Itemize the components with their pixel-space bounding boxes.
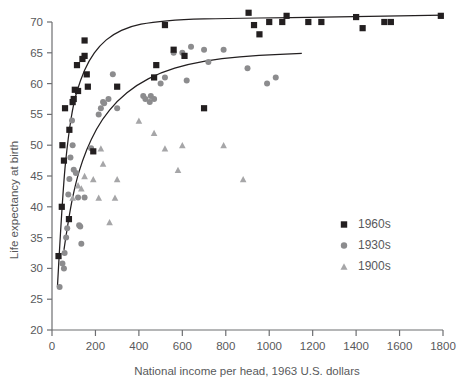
data-point-1930s	[101, 100, 107, 106]
data-point-1960s	[279, 19, 285, 25]
data-point-1930s	[158, 81, 164, 87]
data-point-1930s	[151, 96, 157, 102]
data-point-1960s	[59, 204, 65, 210]
data-point-1960s	[84, 71, 90, 77]
data-point-1960s	[114, 84, 120, 90]
data-point-1930s	[64, 225, 70, 231]
data-point-1930s	[98, 105, 104, 111]
data-point-1930s	[162, 74, 168, 80]
data-point-1900s	[175, 167, 182, 173]
data-point-1960s	[59, 142, 65, 148]
y-tick-label: 40	[30, 201, 43, 213]
data-point-1930s	[66, 176, 72, 182]
y-tick-label: 30	[30, 262, 43, 274]
series-points-1900s	[69, 117, 246, 225]
data-point-1900s	[151, 130, 158, 136]
y-tick-label: 55	[30, 108, 43, 120]
data-point-1930s	[70, 142, 76, 148]
data-point-1960s	[388, 19, 394, 25]
chart-legend: 1960s1930s1900s	[341, 217, 391, 273]
series-points-1930s	[57, 44, 279, 290]
x-axis-ticks: 020040060080010001200140016001800	[49, 330, 456, 352]
data-point-1930s	[114, 105, 120, 111]
data-point-1930s	[67, 155, 73, 161]
data-point-1960s	[251, 22, 257, 28]
data-point-1930s	[62, 250, 68, 256]
x-tick-label: 1200	[300, 340, 326, 352]
data-point-1960s	[151, 74, 157, 80]
data-point-1900s	[100, 161, 107, 167]
data-point-1930s	[201, 47, 207, 53]
data-point-1930s	[75, 195, 81, 201]
data-point-1900s	[162, 145, 169, 151]
y-tick-label: 45	[30, 170, 43, 182]
data-point-1960s	[284, 13, 290, 19]
y-tick-label: 35	[30, 232, 43, 244]
data-point-1930s	[110, 71, 116, 77]
x-tick-label: 1000	[256, 340, 282, 352]
data-point-1900s	[136, 117, 143, 123]
data-point-1930s	[273, 74, 279, 80]
data-point-1960s	[153, 62, 159, 68]
data-point-1930s	[105, 96, 111, 102]
data-point-1930s	[61, 265, 67, 271]
data-point-1930s	[264, 81, 270, 87]
data-point-1930s	[96, 111, 102, 117]
y-tick-label: 20	[30, 324, 43, 336]
data-point-1960s	[201, 105, 207, 111]
data-point-1930s	[77, 224, 83, 230]
data-point-1960s	[61, 158, 67, 164]
legend-marker-1900s	[341, 263, 348, 270]
x-tick-label: 0	[49, 340, 55, 352]
data-point-1960s	[66, 216, 72, 222]
data-point-1960s	[85, 84, 91, 90]
x-tick-label: 1600	[387, 340, 413, 352]
data-point-1930s	[184, 78, 190, 84]
x-axis: 020040060080010001200140016001800	[49, 330, 456, 352]
data-point-1900s	[220, 142, 227, 148]
data-point-1960s	[245, 10, 251, 16]
y-tick-label: 60	[30, 78, 43, 90]
data-point-1960s	[55, 253, 61, 259]
data-point-1960s	[71, 96, 77, 102]
data-point-1960s	[79, 56, 85, 62]
y-tick-label: 50	[30, 139, 43, 151]
y-tick-label: 65	[30, 47, 43, 59]
x-tick-label: 600	[173, 340, 192, 352]
data-point-1930s	[245, 65, 251, 71]
x-axis-title: National income per head, 1963 U.S. doll…	[134, 365, 360, 377]
data-point-1960s	[171, 47, 177, 53]
data-point-1960s	[162, 22, 168, 28]
data-point-1930s	[57, 284, 63, 290]
y-axis-ticks: 2025303540455055606570	[30, 16, 52, 336]
data-point-1930s	[82, 195, 88, 201]
x-tick-label: 400	[129, 340, 148, 352]
x-tick-label: 1800	[430, 340, 456, 352]
legend-label-1930s: 1930s	[358, 238, 391, 252]
data-point-1930s	[78, 241, 84, 247]
data-point-1960s	[90, 148, 96, 154]
data-point-1900s	[112, 194, 119, 200]
data-point-1900s	[179, 142, 186, 148]
x-tick-label: 1400	[343, 340, 369, 352]
data-point-1900s	[240, 176, 247, 182]
data-point-1960s	[360, 25, 366, 31]
chart-container: 2025303540455055606570 02004006008001000…	[0, 0, 457, 387]
data-point-1900s	[90, 176, 97, 182]
data-point-1960s	[74, 62, 80, 68]
data-point-1960s	[318, 19, 324, 25]
data-point-1930s	[188, 44, 194, 50]
data-point-1930s	[221, 47, 227, 53]
y-tick-label: 25	[30, 293, 43, 305]
data-point-1930s	[65, 191, 71, 197]
data-point-1930s	[63, 235, 69, 241]
data-point-1960s	[381, 19, 387, 25]
y-axis-title: Life expectancy at birth	[8, 141, 20, 259]
data-point-1960s	[75, 88, 81, 94]
data-point-1930s	[205, 59, 211, 65]
legend-marker-1960s	[341, 221, 347, 227]
data-point-1960s	[353, 14, 359, 20]
legend-marker-1930s	[341, 242, 347, 248]
data-point-1900s	[81, 173, 88, 179]
data-point-1960s	[266, 19, 272, 25]
